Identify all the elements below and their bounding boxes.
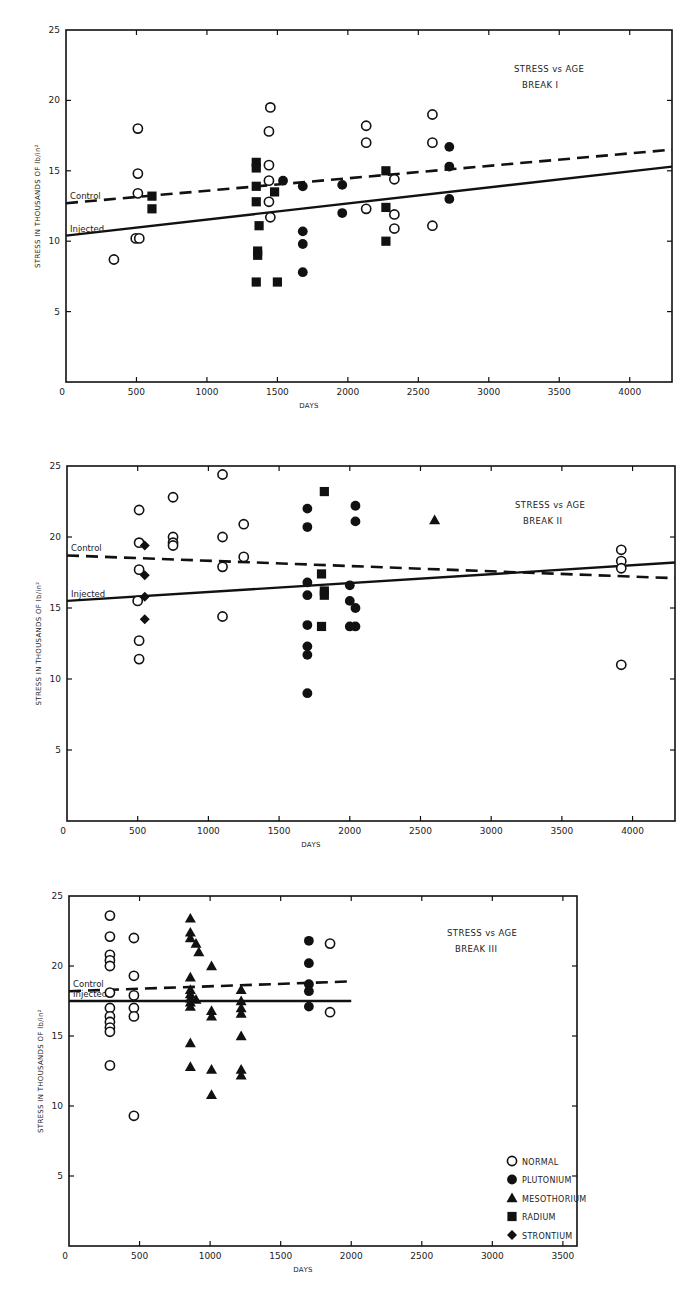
chart-title: STRESS vs AGE bbox=[447, 928, 517, 938]
radium-point bbox=[273, 277, 282, 286]
normal-point bbox=[135, 505, 144, 514]
normal-point bbox=[264, 127, 273, 136]
plutonium-point bbox=[304, 958, 314, 968]
normal-point bbox=[135, 636, 144, 645]
y-tick-label: 5 bbox=[57, 1171, 63, 1181]
plutonium-point bbox=[351, 501, 361, 511]
y-tick-label: 20 bbox=[49, 95, 61, 105]
y-tick-label: 10 bbox=[49, 236, 61, 246]
legend-label-normal: NORMAL bbox=[522, 1158, 559, 1167]
mesothorium-point bbox=[185, 913, 196, 923]
y-axis-title: STRESS IN THOUSANDS OF lb/in² bbox=[34, 144, 42, 268]
radium-point bbox=[252, 277, 261, 286]
injected-line-label: Injected bbox=[70, 224, 104, 234]
x-tick-label: 3500 bbox=[548, 387, 571, 397]
mesothorium-point bbox=[206, 1064, 217, 1074]
y-axis-title: STRESS IN THOUSANDS OF lb/in² bbox=[35, 582, 43, 706]
normal-point bbox=[105, 1061, 114, 1070]
normal-point bbox=[239, 520, 248, 529]
control-line-label: Control bbox=[70, 191, 101, 201]
normal-point bbox=[168, 493, 177, 502]
legend-strontium-icon bbox=[507, 1230, 517, 1240]
normal-point bbox=[133, 124, 142, 133]
normal-point bbox=[325, 939, 334, 948]
radium-point bbox=[252, 163, 261, 172]
plutonium-point bbox=[444, 142, 454, 152]
x-axis-title: DAYS bbox=[293, 1266, 313, 1274]
mesothorium-point bbox=[185, 972, 196, 982]
plutonium-point bbox=[278, 176, 288, 186]
normal-point bbox=[129, 991, 138, 1000]
legend-label-radium: RADIUM bbox=[522, 1213, 556, 1222]
x-tick-label: 1500 bbox=[269, 1251, 292, 1261]
plutonium-point bbox=[302, 590, 312, 600]
x-tick-label: 3000 bbox=[480, 826, 503, 836]
normal-point bbox=[105, 1027, 114, 1036]
series-normal bbox=[105, 911, 334, 1120]
x-tick-label: 500 bbox=[131, 1251, 148, 1261]
legend-label-strontium: STRONTIUM bbox=[522, 1232, 573, 1241]
x-tick-label: 0 bbox=[59, 387, 65, 397]
y-tick-label: 5 bbox=[55, 745, 61, 755]
chart-subtitle: BREAK III bbox=[455, 944, 497, 954]
plutonium-point bbox=[302, 522, 312, 532]
radium-point bbox=[317, 569, 326, 578]
y-tick-label: 10 bbox=[50, 674, 62, 684]
plutonium-point bbox=[304, 936, 314, 946]
x-tick-label: 2500 bbox=[409, 826, 432, 836]
x-tick-label: 2000 bbox=[340, 1251, 363, 1261]
x-tick-label: 1000 bbox=[195, 387, 218, 397]
y-tick-label: 5 bbox=[54, 307, 60, 317]
normal-point bbox=[133, 189, 142, 198]
series-plutonium bbox=[302, 501, 360, 698]
normal-point bbox=[617, 660, 626, 669]
series-mesothorium bbox=[185, 913, 247, 1099]
chart-subtitle: BREAK II bbox=[523, 516, 562, 526]
y-tick-label: 20 bbox=[50, 532, 62, 542]
mesothorium-point bbox=[236, 1031, 247, 1041]
x-tick-label: 500 bbox=[129, 826, 146, 836]
x-tick-label: 2000 bbox=[338, 826, 361, 836]
injected-regression-line bbox=[67, 563, 675, 601]
control-line-label: Control bbox=[71, 543, 102, 553]
normal-point bbox=[218, 612, 227, 621]
control-regression-line bbox=[67, 555, 675, 578]
x-tick-label: 4000 bbox=[618, 387, 641, 397]
x-tick-label: 2500 bbox=[407, 387, 430, 397]
plutonium-point bbox=[302, 650, 312, 660]
normal-point bbox=[362, 204, 371, 213]
x-axis-title: DAYS bbox=[301, 841, 321, 849]
radium-point bbox=[147, 192, 156, 201]
legend-radium-icon bbox=[507, 1212, 516, 1221]
radium-point bbox=[317, 622, 326, 631]
chart-break-3: 0500100015002000250030003500510152025DAY… bbox=[37, 891, 587, 1274]
normal-point bbox=[264, 197, 273, 206]
normal-point bbox=[135, 655, 144, 664]
mesothorium-point bbox=[185, 1061, 196, 1071]
plutonium-point bbox=[351, 622, 361, 632]
plot-frame bbox=[69, 896, 577, 1246]
plutonium-point bbox=[302, 578, 312, 588]
plot-frame bbox=[67, 466, 675, 821]
normal-point bbox=[105, 988, 114, 997]
normal-point bbox=[168, 541, 177, 550]
chart-title: STRESS vs AGE bbox=[515, 500, 585, 510]
normal-point bbox=[218, 532, 227, 541]
normal-point bbox=[390, 175, 399, 184]
mesothorium-point bbox=[185, 1038, 196, 1048]
normal-point bbox=[390, 224, 399, 233]
normal-point bbox=[362, 121, 371, 130]
plutonium-point bbox=[302, 688, 312, 698]
plutonium-point bbox=[304, 986, 314, 996]
normal-point bbox=[129, 1111, 138, 1120]
normal-point bbox=[129, 933, 138, 942]
normal-point bbox=[266, 103, 275, 112]
x-tick-label: 3500 bbox=[550, 826, 573, 836]
normal-point bbox=[129, 1012, 138, 1021]
x-tick-label: 3000 bbox=[481, 1251, 504, 1261]
normal-point bbox=[428, 138, 437, 147]
plutonium-point bbox=[302, 641, 312, 651]
y-tick-label: 25 bbox=[52, 891, 63, 901]
x-tick-label: 3000 bbox=[477, 387, 500, 397]
normal-point bbox=[105, 932, 114, 941]
